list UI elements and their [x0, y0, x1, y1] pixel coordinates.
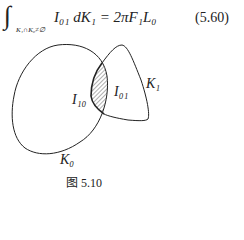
- label-k0: K₀: [60, 152, 74, 168]
- label-i01: I₀₁: [114, 84, 128, 100]
- intersection-hatched-region: [91, 45, 149, 121]
- label-i10: I₁₀: [72, 92, 86, 108]
- label-k1: K₁: [146, 76, 160, 92]
- figure-caption: 图 5.10: [66, 173, 102, 188]
- k1-curve: [102, 45, 149, 121]
